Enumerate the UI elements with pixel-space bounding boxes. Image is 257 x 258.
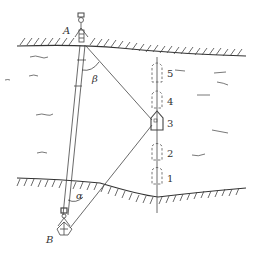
boat-label-2: 2 bbox=[167, 148, 173, 159]
beta-arc bbox=[82, 62, 99, 70]
survey-diagram: 5 4 3 2 1 β α A B bbox=[0, 0, 257, 258]
top-riverbank bbox=[17, 38, 246, 56]
beta-label: β bbox=[91, 73, 98, 84]
sight-line-B bbox=[70, 125, 152, 228]
water-waves bbox=[5, 56, 228, 156]
boat-label-4: 4 bbox=[167, 96, 173, 107]
bottom-riverbank bbox=[17, 178, 246, 204]
boat-label-1: 1 bbox=[167, 173, 173, 184]
station-B-label: B bbox=[45, 234, 53, 245]
boat-label-5: 5 bbox=[167, 68, 173, 79]
surveyor-B-icon bbox=[57, 208, 72, 235]
boat-label-3: 3 bbox=[167, 118, 173, 129]
alpha-label: α bbox=[76, 190, 83, 201]
station-A-label: A bbox=[62, 25, 70, 36]
surveyor-A-icon bbox=[75, 13, 88, 42]
